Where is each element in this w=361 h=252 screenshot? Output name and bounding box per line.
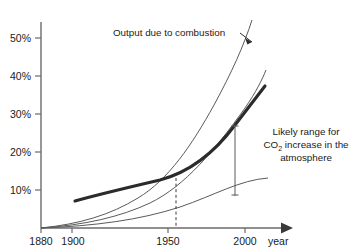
x-axis-title: year: [268, 235, 289, 247]
y-tick-label-30: 30%: [10, 108, 31, 120]
annotation-range-line2: CO2 increase in the: [263, 139, 349, 153]
annotation-range-line3: atmosphere: [280, 152, 332, 163]
y-axis-ticks: [35, 38, 41, 190]
x-tick-label-1880: 1880: [29, 235, 53, 247]
series-line-co2-atmosphere: [75, 86, 265, 201]
x-axis-ticks: [41, 228, 245, 233]
x-tick-label-1900: 1900: [61, 235, 85, 247]
likely-range-bar: [232, 125, 239, 196]
y-tick-label-40: 40%: [10, 70, 31, 82]
annotation-combustion-leader: [240, 33, 252, 45]
x-tick-label-1950: 1950: [156, 235, 180, 247]
y-tick-label-10: 10%: [10, 184, 31, 196]
annotation-range-increase-text: increase in the: [282, 139, 349, 150]
series-line-combustion: [41, 20, 252, 228]
x-axis-arrowhead: [281, 223, 293, 234]
annotation-range-line1: Likely range for: [273, 126, 341, 137]
annotation-combustion-label: Output due to combustion: [113, 27, 225, 38]
annotation-range-co2-text: CO: [263, 139, 278, 150]
y-tick-label-50: 50%: [10, 32, 31, 44]
chart-container: 50% 40% 30% 20% 10% 1880 1900 1950 2000 …: [0, 0, 361, 252]
y-tick-label-20: 20%: [10, 146, 31, 158]
x-tick-label-2000: 2000: [233, 235, 257, 247]
chart-svg: 50% 40% 30% 20% 10% 1880 1900 1950 2000 …: [0, 0, 361, 252]
series-line-upper-bound: [41, 70, 266, 228]
